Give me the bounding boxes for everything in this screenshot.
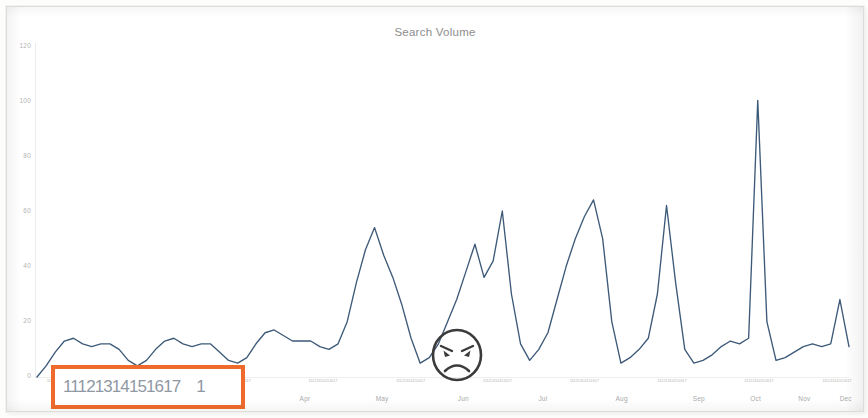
chart-plot-area: 120 100 80 60 40 20 0	[37, 45, 849, 375]
x-axis-month-apr: Apr	[300, 395, 311, 402]
x-axis-month-oct: Oct	[750, 395, 761, 402]
x-axis-day-ticks-group: 11121314151617	[396, 378, 425, 383]
y-axis-line	[35, 43, 36, 377]
x-axis-day-ticks-group: 11121314151617	[483, 378, 512, 383]
x-axis-month-may: May	[376, 395, 389, 402]
x-axis-month-nov: Nov	[798, 395, 810, 402]
x-axis-day-ticks-group: 11121314151617	[744, 378, 773, 383]
x-axis-day-ticks-group: 11121314151617	[308, 378, 337, 383]
x-axis-day-ticks-group: 11121314151617	[570, 378, 599, 383]
x-axis-month-jun: Jun	[458, 395, 469, 402]
highlight-rectangle: 111213141516171	[51, 365, 245, 409]
screenshot-canvas: Search Volume 120 100 80 60 40 20 0 1112…	[0, 0, 868, 418]
x-axis-month-sep: Sep	[693, 395, 705, 402]
x-axis-month-dec: Dec	[840, 395, 852, 402]
chart-title: Search Volume	[7, 26, 863, 38]
y-axis-tick-80: 80	[23, 152, 31, 159]
x-axis-month-jul: Jul	[538, 395, 547, 402]
x-axis-day-ticks-group: 11121314151617	[822, 378, 851, 383]
y-axis-tick-100: 100	[20, 97, 31, 104]
x-axis-month-aug: Aug	[616, 395, 628, 402]
y-axis-tick-20: 20	[23, 317, 31, 324]
y-axis-tick-0: 0	[27, 372, 31, 379]
y-axis-tick-40: 40	[23, 262, 31, 269]
chart-paper-frame: Search Volume 120 100 80 60 40 20 0 1112…	[6, 6, 864, 412]
angry-face-annotation	[430, 327, 484, 383]
x-axis-day-ticks-group: 11121314151617	[657, 378, 686, 383]
zoomed-day-tick-text: 11121314151617	[63, 377, 180, 397]
y-axis-tick-120: 120	[20, 42, 31, 49]
zoomed-day-tick-text-overflow: 1	[196, 377, 205, 397]
zoomed-day-tick-labels: 111213141516171	[55, 369, 241, 405]
angry-face-icon	[430, 327, 484, 383]
y-axis-tick-60: 60	[23, 207, 31, 214]
